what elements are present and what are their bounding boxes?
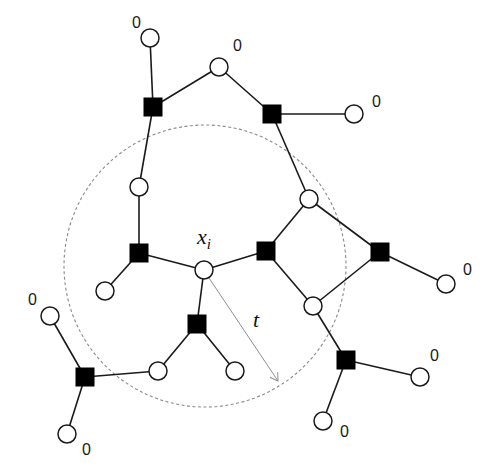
factor-node (188, 315, 206, 333)
leaf-labels-group: 00000000 (28, 14, 472, 458)
graph-edge (139, 253, 204, 270)
graph-edge (313, 252, 380, 306)
factor-node (257, 242, 275, 260)
variable-node (58, 425, 76, 443)
leaf-value-label: 0 (430, 347, 439, 364)
center-label-symbol: x (196, 224, 207, 249)
leaf-value-label: 0 (233, 37, 242, 54)
graph-edge (380, 252, 446, 284)
graph-edge (272, 114, 309, 199)
leaf-value-label: 0 (372, 93, 381, 110)
graph-edge (153, 67, 219, 107)
factor-node (130, 244, 148, 262)
leaf-value-label: 0 (82, 441, 91, 458)
variable-node (210, 58, 228, 76)
factor-node (263, 105, 281, 123)
edges-group (50, 38, 446, 434)
variable-node (141, 29, 159, 47)
graph-edge (346, 360, 420, 377)
variable-node (41, 307, 59, 325)
leaf-value-label: 0 (340, 423, 349, 440)
variable-node (411, 368, 429, 386)
variable-node (96, 282, 114, 300)
variable-node (149, 362, 167, 380)
variable-node (300, 190, 318, 208)
leaf-value-label: 0 (132, 14, 141, 31)
variable-node (437, 275, 455, 293)
variable-node (345, 105, 363, 123)
factor-graph-diagram: 00000000 xi t (0, 0, 495, 476)
center-label-subscript: i (207, 236, 211, 252)
factor-node (371, 243, 389, 261)
graph-edge (85, 371, 158, 377)
variable-node (226, 362, 244, 380)
factor-nodes-group (76, 98, 389, 386)
factor-node (337, 351, 355, 369)
leaf-value-label: 0 (463, 261, 472, 278)
factor-node (144, 98, 162, 116)
graph-edge (139, 107, 153, 187)
factor-node (76, 368, 94, 386)
radius-label: t (253, 307, 260, 332)
center-node-label: xi (196, 224, 211, 252)
variable-node (304, 297, 322, 315)
variable-node (314, 412, 332, 430)
center-variable-node (195, 261, 213, 279)
variable-nodes-group (41, 29, 455, 443)
graph-edge (150, 38, 153, 107)
leaf-value-label: 0 (28, 291, 37, 308)
variable-node (130, 178, 148, 196)
